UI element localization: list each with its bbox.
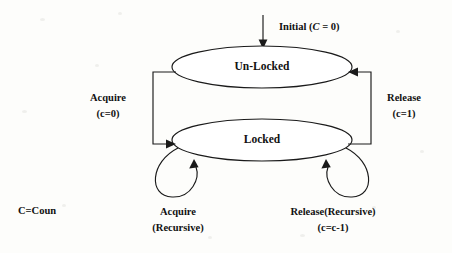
state-unlocked-label: Un-Locked bbox=[235, 60, 291, 72]
state-locked-label: Locked bbox=[244, 133, 281, 145]
transition-acquire-label: Acquire (c=0) bbox=[90, 92, 126, 120]
transition-acquire-recursive-label: Acquire (Recursive) bbox=[152, 206, 204, 234]
transition-release-recursive[interactable] bbox=[321, 148, 368, 197]
svg-text:(c=1): (c=1) bbox=[393, 108, 416, 120]
svg-text:Release: Release bbox=[387, 92, 421, 103]
svg-text:(c=0): (c=0) bbox=[97, 108, 120, 120]
svg-text:Acquire: Acquire bbox=[90, 92, 126, 103]
initial-label: Initial (C = 0) bbox=[279, 21, 340, 33]
transition-acquire-recursive[interactable] bbox=[155, 148, 198, 197]
state-locked[interactable]: Locked bbox=[172, 119, 352, 161]
svg-text:Acquire: Acquire bbox=[160, 206, 196, 217]
svg-text:(Recursive): (Recursive) bbox=[152, 222, 204, 234]
legend-counter-note: C=Coun bbox=[18, 205, 56, 216]
transition-release-recursive-label: Release(Recursive) (c=c-1) bbox=[290, 206, 376, 234]
state-diagram: Un-Locked Locked Initial (C = 0) bbox=[0, 0, 452, 253]
transition-release[interactable] bbox=[348, 67, 371, 144]
svg-text:(c=c-1): (c=c-1) bbox=[317, 222, 349, 234]
initial-transition-arrow bbox=[259, 15, 268, 49]
transition-release-label: Release (c=1) bbox=[387, 92, 421, 120]
state-unlocked[interactable]: Un-Locked bbox=[172, 46, 352, 88]
svg-text:Release(Recursive): Release(Recursive) bbox=[290, 206, 376, 218]
